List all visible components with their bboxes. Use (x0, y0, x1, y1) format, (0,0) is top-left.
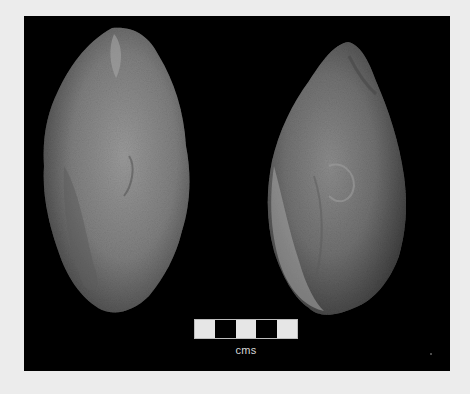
dust-speck (430, 353, 432, 355)
scale-segment (195, 320, 215, 338)
photo-backdrop: cms (24, 16, 450, 371)
scale-bar (194, 319, 298, 339)
scale-segment (277, 320, 297, 338)
scale-segment (215, 320, 235, 338)
scale-segment (236, 320, 256, 338)
scale-label: cms (194, 344, 298, 356)
scale-segment (256, 320, 276, 338)
right-hand-axe (24, 16, 450, 371)
